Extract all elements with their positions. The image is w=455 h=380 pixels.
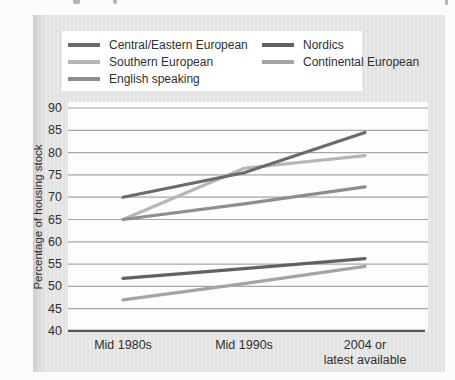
- cropped-text-fragment: [445, 0, 448, 5]
- data-line-4: [123, 259, 365, 279]
- y-tick-label: 70: [32, 190, 62, 204]
- chart-legend: Central/Eastern EuropeanSouthern Europea…: [62, 31, 362, 91]
- legend-item: Southern European: [68, 53, 248, 70]
- legend-label: Nordics: [303, 39, 344, 51]
- y-tick-label: 40: [32, 324, 62, 338]
- cropped-text-fragment: [113, 0, 117, 4]
- legend-item: Continental European: [262, 53, 419, 70]
- legend-label: Continental European: [303, 56, 419, 68]
- legend-label: Southern European: [109, 56, 213, 68]
- legend-item: English speaking: [68, 70, 248, 87]
- y-tick-label: 55: [32, 257, 62, 271]
- data-line-5: [123, 266, 365, 300]
- y-tick-label: 60: [32, 235, 62, 249]
- legend-line-swatch: [68, 77, 100, 81]
- x-tick-label: Mid 1990s: [189, 338, 299, 353]
- legend-line-swatch: [262, 43, 294, 47]
- legend-label: Central/Eastern European: [109, 39, 248, 51]
- cropped-text-fragment: [73, 0, 80, 4]
- x-tick-label: Mid 1980s: [68, 338, 178, 353]
- page: { "figure": { "background_color": "#e6e6…: [0, 0, 455, 380]
- legend-line-swatch: [68, 60, 100, 64]
- legend-column: Central/Eastern EuropeanSouthern Europea…: [68, 36, 248, 87]
- x-tick-label: 2004 or latest available: [310, 338, 420, 368]
- line-chart: [68, 102, 428, 332]
- y-tick-label: 50: [32, 279, 62, 293]
- y-tick-label: 80: [32, 146, 62, 160]
- data-line-2: [123, 156, 365, 220]
- y-tick-label: 65: [32, 213, 62, 227]
- y-tick-label: 85: [32, 123, 62, 137]
- y-tick-label: 90: [32, 101, 62, 115]
- legend-item: Central/Eastern European: [68, 36, 248, 53]
- legend-column: NordicsContinental European: [262, 36, 419, 70]
- chart-figure: Central/Eastern EuropeanSouthern Europea…: [33, 15, 445, 372]
- plot-area: Percentage of housing stock 404550556065…: [68, 102, 428, 332]
- legend-line-swatch: [262, 60, 294, 64]
- legend-label: English speaking: [109, 73, 200, 85]
- legend-item: Nordics: [262, 36, 419, 53]
- y-tick-label: 45: [32, 302, 62, 316]
- y-tick-label: 75: [32, 168, 62, 182]
- data-line-1: [123, 133, 365, 198]
- legend-line-swatch: [68, 43, 100, 47]
